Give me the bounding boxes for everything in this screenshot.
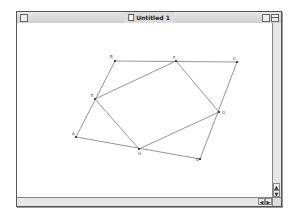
scroll-left-icon: ◀ <box>260 199 264 205</box>
scroll-right-button[interactable]: ▶ <box>265 198 272 205</box>
scroll-left-button[interactable]: ◀ <box>258 198 265 205</box>
resize-grip-icon[interactable] <box>272 197 281 206</box>
horizontal-scrollbar[interactable]: ◀ ▶ <box>17 197 272 206</box>
scroll-right-icon: ▶ <box>267 199 271 205</box>
scroll-up-button[interactable]: ▲ <box>273 183 280 190</box>
close-box-icon[interactable] <box>20 14 28 22</box>
window-title: Untitled 1 <box>124 12 174 23</box>
drawing-canvas[interactable] <box>17 23 272 197</box>
scroll-down-button[interactable]: ▼ <box>273 190 280 197</box>
document-icon <box>128 14 134 21</box>
zoom-box-icon[interactable] <box>262 14 270 22</box>
vertical-scrollbar[interactable]: ▲ ▼ <box>272 23 281 197</box>
window-title-text: Untitled 1 <box>136 12 170 23</box>
app-window: Untitled 1 ▲ ▼ ◀ ▶ <box>16 11 282 207</box>
collapse-box-icon[interactable] <box>271 14 279 22</box>
